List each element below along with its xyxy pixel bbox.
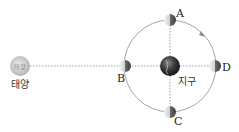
earth-label: 지구 [178, 76, 196, 87]
label-c: C [174, 115, 182, 128]
moon-d [209, 60, 221, 72]
diagram-canvas: 태양 태양 지구 A B C D [0, 0, 239, 132]
moon-a [164, 14, 176, 26]
sun: 태양 [10, 56, 30, 76]
sun-inner-text: 태양 [14, 63, 26, 71]
label-b: B [117, 72, 125, 85]
sun-label: 태양 [11, 79, 29, 90]
label-a: A [175, 7, 185, 20]
earth [160, 56, 180, 76]
label-d: D [222, 61, 231, 74]
moon-b [119, 60, 131, 72]
orbit-direction-arrow-icon [199, 31, 205, 37]
